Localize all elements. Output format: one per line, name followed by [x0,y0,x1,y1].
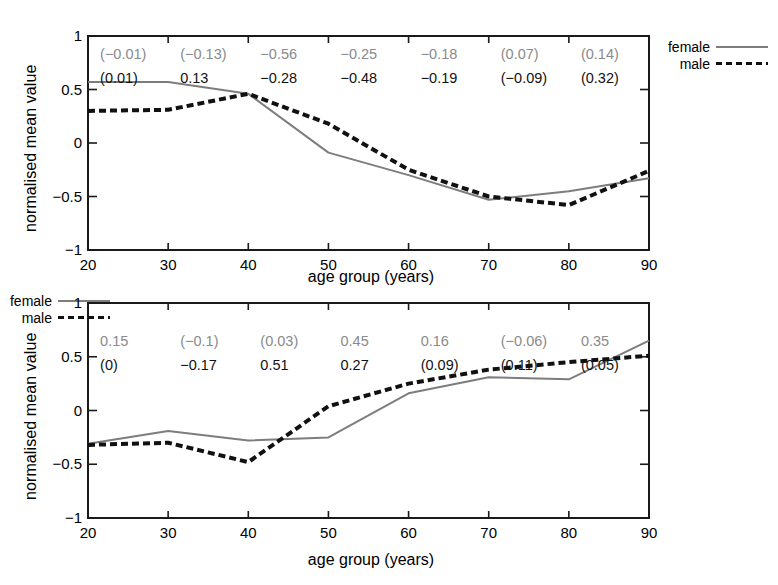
y-tick-label: 0 [36,402,82,419]
x-tick-label: 80 [547,256,591,273]
annotation-female: (−0.06) [501,333,547,349]
x-tick-label: 30 [146,256,190,273]
annotation-male: −0.17 [180,357,217,373]
annotation-female: (0.07) [501,46,539,62]
x-tick-label: 70 [467,524,511,541]
annotation-female: (−0.1) [180,333,218,349]
annotation-male: 0.51 [260,357,288,373]
x-tick-label: 80 [547,524,591,541]
x-tick-label: 90 [627,256,671,273]
x-tick-label: 20 [66,524,110,541]
annotation-female: 0.45 [341,333,369,349]
legend-label-male: male [0,310,52,326]
chart-panel-top: normalised mean value age group (years) … [0,0,778,292]
x-tick-label: 50 [306,256,350,273]
y-tick-label: 0.5 [36,81,82,98]
legend-row-female: female [658,38,768,55]
x-tick-label: 30 [146,524,190,541]
annotation-female: (0.14) [581,46,619,62]
annotation-female: 0.35 [581,333,609,349]
annotation-female: (−0.01) [100,46,146,62]
y-tick-label: 0 [36,134,82,151]
annotation-male: 0.27 [341,357,369,373]
annotation-female: 0.15 [100,333,128,349]
y-tick-label: −0.5 [36,455,82,472]
legend-top: female male [658,38,768,72]
legend-row-male: male [0,309,110,326]
x-axis-label-bottom: age group (years) [88,551,654,569]
x-tick-label: 60 [387,256,431,273]
legend-swatch-female-solid-line [716,42,768,52]
annotation-female: −0.25 [341,46,378,62]
y-tick-label: 1 [36,27,82,44]
annotation-male: −0.28 [260,70,297,86]
annotation-female: (−0.13) [180,46,226,62]
annotation-male: −0.19 [421,70,458,86]
annotation-male: (0.32) [581,70,619,86]
annotation-male: (0.09) [421,357,459,373]
x-tick-label: 40 [226,524,270,541]
legend-label-female: female [658,39,710,55]
annotation-male: −0.48 [341,70,378,86]
x-tick-label: 90 [627,524,671,541]
x-tick-label: 60 [387,524,431,541]
series-line-male [88,94,649,205]
x-tick-label: 70 [467,256,511,273]
x-tick-label: 20 [66,256,110,273]
y-tick-label: −0.5 [36,188,82,205]
x-tick-label: 50 [306,524,350,541]
annotation-female: (0.03) [260,333,298,349]
annotation-male: (−0.09) [501,70,547,86]
legend-row-male: male [658,55,768,72]
annotation-male: (0.05) [581,357,619,373]
annotation-male: (0.11) [501,357,538,373]
y-tick-label: −1 [36,241,82,258]
figure: normalised mean value age group (years) … [0,0,778,585]
annotation-male: (0) [100,357,118,373]
annotation-male: (0.01) [100,70,138,86]
annotation-male: 0.13 [180,70,208,86]
x-tick-label: 40 [226,256,270,273]
annotation-female: −0.18 [421,46,458,62]
annotation-female: −0.56 [260,46,297,62]
y-tick-label: 1 [36,294,82,311]
y-tick-label: 0.5 [36,348,82,365]
legend-label-male: male [658,56,710,72]
series-line-female [88,82,649,200]
legend-swatch-male-dashed-line [58,313,110,323]
legend-swatch-male-dashed-line [716,59,768,69]
annotation-female: 0.16 [421,333,449,349]
y-tick-label: −1 [36,509,82,526]
